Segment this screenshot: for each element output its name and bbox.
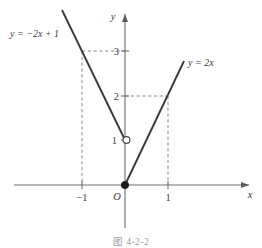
figure-caption: 图 4-2-2 — [0, 237, 262, 248]
function-graph-figure: y x O −1 1 1 2 3 y = −2x + 1 y = 2x — [0, 0, 262, 248]
origin-label: O — [113, 191, 121, 202]
y-tick-label-2: 2 — [114, 91, 119, 102]
x-tick-label-neg1: −1 — [76, 192, 87, 203]
open-circle-marker-0-1 — [123, 137, 130, 144]
x-axis-label: x — [247, 189, 253, 200]
y-tick-label-3: 3 — [114, 46, 119, 57]
line-segment-negative-branch — [62, 10, 125, 140]
equation-label-left: y = −2x + 1 — [9, 28, 59, 39]
x-axis-arrow-icon — [241, 182, 249, 188]
cartesian-plot: y x O −1 1 1 2 3 y = −2x + 1 y = 2x — [0, 0, 262, 248]
y-axis-arrow-icon — [122, 14, 128, 22]
x-tick-label-1: 1 — [165, 192, 170, 203]
equation-label-right: y = 2x — [187, 57, 214, 68]
y-axis-label: y — [110, 11, 116, 22]
line-segment-positive-branch — [125, 61, 184, 185]
y-tick-label-1: 1 — [112, 135, 117, 146]
filled-dot-marker-origin — [121, 181, 128, 188]
